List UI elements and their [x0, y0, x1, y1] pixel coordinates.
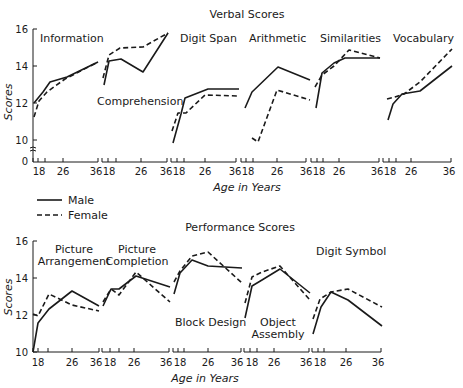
svg-text:36: 36 — [90, 357, 103, 368]
svg-text:36: 36 — [372, 357, 385, 368]
panel-label-picture-completion-2: Completion — [105, 255, 168, 268]
svg-text:18: 18 — [384, 166, 397, 177]
panel-label-arithmetic: Arithmetic — [249, 32, 306, 45]
svg-text:36: 36 — [231, 357, 244, 368]
svg-text:26: 26 — [128, 357, 141, 368]
svg-text:36: 36 — [160, 166, 173, 177]
panel-label-digit-span: Digit Span — [180, 32, 237, 45]
panel-label-object-assembly-2: Assembly — [251, 328, 305, 341]
verbal-lines — [34, 33, 452, 143]
svg-text:26: 26 — [57, 166, 70, 177]
panel-label-comprehension: Comprehension — [97, 95, 183, 108]
svg-text:36: 36 — [229, 166, 242, 177]
panel-label-picture-arrangement-2: Arrangement — [38, 255, 111, 268]
svg-text:18: 18 — [104, 357, 117, 368]
svg-text:36: 36 — [300, 166, 313, 177]
svg-text:10: 10 — [15, 347, 28, 358]
svg-text:26: 26 — [333, 166, 346, 177]
panel-label-block-design: Block Design — [175, 316, 246, 329]
verbal-x-label: Age in Years — [212, 181, 281, 194]
svg-text:26: 26 — [271, 166, 284, 177]
svg-text:18: 18 — [32, 357, 45, 368]
performance-title: Performance Scores — [185, 221, 295, 234]
svg-text:18: 18 — [173, 166, 186, 177]
vocabulary-male-line — [388, 66, 452, 120]
comprehension-male-line — [104, 33, 168, 85]
svg-text:18: 18 — [174, 357, 187, 368]
svg-text:26: 26 — [202, 357, 215, 368]
performance-y-axis: 16 14 12 10 Scores — [2, 236, 37, 358]
svg-text:18: 18 — [103, 166, 116, 177]
svg-text:16: 16 — [15, 236, 28, 247]
information-male-line — [34, 62, 98, 103]
svg-text:18: 18 — [246, 357, 259, 368]
arithmetic-female-line — [252, 90, 310, 142]
picture-arrangement-female-line — [33, 294, 99, 316]
similarities-male-line — [316, 58, 380, 108]
svg-text:12: 12 — [15, 98, 28, 109]
verbal-y-label: Scores — [2, 83, 15, 120]
svg-text:10: 10 — [15, 135, 28, 146]
performance-x-axis: 18 26 36 18 26 36 18 26 36 18 26 36 18 2… — [32, 348, 385, 385]
verbal-title: Verbal Scores — [210, 8, 285, 21]
svg-text:36: 36 — [90, 166, 103, 177]
svg-text:26: 26 — [135, 166, 148, 177]
svg-text:26: 26 — [199, 166, 212, 177]
performance-x-label: Age in Years — [170, 372, 239, 385]
svg-text:26: 26 — [405, 166, 418, 177]
svg-text:18: 18 — [314, 357, 327, 368]
svg-text:12: 12 — [15, 310, 28, 321]
svg-text:36: 36 — [300, 357, 313, 368]
panel-label-information: Information — [40, 32, 104, 45]
panel-label-digit-symbol: Digit Symbol — [316, 245, 386, 258]
arithmetic-male-line — [245, 67, 310, 108]
svg-text:18: 18 — [313, 166, 326, 177]
svg-text:36: 36 — [160, 357, 173, 368]
verbal-x-axis: 18 26 36 18 26 36 18 26 36 18 26 36 18 2… — [33, 158, 456, 194]
wais-scores-chart: Verbal Scores 16 14 12 10 0 Scores 18 26… — [0, 0, 463, 388]
svg-text:36: 36 — [443, 166, 456, 177]
similarities-female-line — [315, 50, 380, 87]
picture-arrangement-male-line — [33, 291, 99, 352]
digit-symbol-male-line — [313, 292, 382, 334]
svg-text:26: 26 — [340, 357, 353, 368]
legend-female-label: Female — [68, 209, 108, 222]
svg-text:14: 14 — [15, 61, 28, 72]
verbal-y-axis: 16 14 12 10 0 Scores — [2, 24, 37, 167]
panel-label-similarities: Similarities — [320, 32, 381, 45]
svg-text:14: 14 — [15, 273, 28, 284]
legend-male-label: Male — [68, 194, 94, 207]
svg-text:18: 18 — [33, 166, 46, 177]
legend: Male Female — [37, 194, 108, 222]
svg-text:36: 36 — [371, 166, 384, 177]
information-female-line — [34, 62, 98, 117]
svg-text:16: 16 — [15, 24, 28, 35]
svg-text:0: 0 — [22, 156, 28, 167]
performance-y-label: Scores — [2, 278, 15, 315]
svg-text:26: 26 — [66, 357, 79, 368]
panel-label-vocabulary: Vocabulary — [393, 32, 454, 45]
object-assembly-male-line — [245, 269, 310, 318]
svg-text:26: 26 — [268, 357, 281, 368]
svg-text:18: 18 — [242, 166, 255, 177]
comprehension-female-line — [103, 33, 168, 78]
